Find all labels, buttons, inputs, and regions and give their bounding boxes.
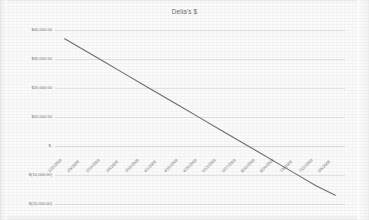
gridline <box>55 59 345 60</box>
x-axis-tick-label: 6/24/2008 <box>259 157 275 173</box>
y-axis-tick-label: $40,000.00 <box>4 27 52 32</box>
x-axis-tick-label: 4/1/2008 <box>143 159 158 174</box>
gridline <box>55 204 345 205</box>
scan-edge-top <box>0 0 369 5</box>
gridline <box>55 88 345 89</box>
x-axis-tick-label: 4/15/2008 <box>162 157 178 173</box>
x-axis-tick-label: 2/19/2008 <box>85 157 101 173</box>
y-axis-tick-label: $(20,000.00) <box>4 201 52 206</box>
y-axis-tick-label: $- <box>4 143 52 148</box>
x-axis-tick-label: 5/27/2008 <box>220 157 236 173</box>
x-axis-tick-label: 2/5/2008 <box>66 159 81 174</box>
y-axis-tick-label: $30,000.00 <box>4 56 52 61</box>
x-axis-tick-label: 8/5/2008 <box>317 159 332 174</box>
x-axis-tick-label: 7/8/2008 <box>278 159 293 174</box>
x-axis-tick-label: 3/18/2008 <box>124 157 140 173</box>
y-axis: $40,000.00$30,000.00$20,000.00$10,000.00… <box>2 30 52 204</box>
x-axis: 1/22/20082/5/20082/19/20083/4/20083/18/2… <box>55 146 345 186</box>
y-axis-tick-label: $(10,000.00) <box>4 172 52 177</box>
x-axis-tick-label: 5/13/2008 <box>201 157 217 173</box>
gridline <box>55 30 345 31</box>
gridline <box>55 117 345 118</box>
x-axis-tick-label: 3/4/2008 <box>104 159 119 174</box>
x-axis-tick-label: 4/29/2008 <box>182 157 198 173</box>
y-axis-tick-label: $20,000.00 <box>4 85 52 90</box>
scan-edge-right <box>357 0 369 220</box>
x-axis-tick-label: 7/22/2008 <box>298 157 314 173</box>
y-axis-tick-label: $10,000.00 <box>4 114 52 119</box>
x-axis-tick-label: 6/10/2008 <box>240 157 256 173</box>
chart-title: Delia's $ <box>0 8 369 15</box>
scan-edge-bottom <box>0 212 369 220</box>
